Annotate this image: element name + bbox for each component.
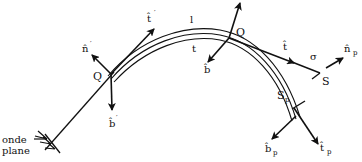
- s-label: S: [322, 75, 330, 88]
- s-tick: [312, 73, 320, 79]
- n-prime-label: n̂: [82, 43, 89, 54]
- incident-ray-line: [45, 72, 114, 150]
- b-prime-arrow: [111, 74, 112, 110]
- b-p-label: b̂: [264, 142, 271, 154]
- n-p-arrow: [326, 58, 343, 68]
- n-p-subscript: p: [353, 49, 358, 57]
- t-p-label: t̂: [319, 141, 324, 153]
- t-p-subscript: p: [327, 148, 332, 156]
- n-p-label: n̂: [344, 43, 351, 54]
- b-label: b̂: [203, 63, 210, 75]
- s-p-subscript: p: [285, 96, 290, 104]
- b-arrow: [208, 38, 229, 62]
- q-prime-label: Q: [93, 70, 102, 83]
- t-p-arrow: [294, 108, 318, 144]
- sigma-label: σ: [310, 51, 317, 62]
- b-prime-label: b̂: [108, 117, 115, 129]
- b-p-arrow: [272, 116, 296, 139]
- t-label: t: [192, 43, 196, 54]
- b-prime-mark: ′: [116, 114, 118, 122]
- t-prime-arrow: [111, 29, 154, 74]
- n-prime-mark: ′: [90, 40, 92, 48]
- onde-plane-label-1: onde: [2, 134, 27, 145]
- plane-wave-arrows-icon: [34, 131, 55, 149]
- s-p-connector: [292, 101, 305, 109]
- onde-plane-label-2: plane: [2, 145, 30, 156]
- sigma-line: [292, 62, 320, 73]
- s-p-label: S: [277, 89, 285, 102]
- ray-tube-diagram: onde plane Q n̂ ′ t̂ ′ b̂ ′ l t Q b̂ t̂ …: [0, 0, 362, 162]
- t-prime-label: t̂: [146, 12, 151, 24]
- t-prime-mark: ′: [154, 9, 156, 17]
- t-hat-label: t̂: [282, 40, 287, 52]
- b-p-subscript: p: [273, 149, 278, 157]
- q-label: Q: [236, 26, 245, 39]
- l-label: l: [190, 14, 193, 25]
